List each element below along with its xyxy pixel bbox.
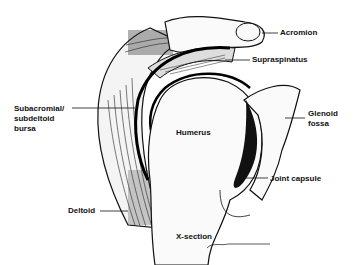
label-joint-capsule: Joint capsule <box>270 174 321 184</box>
label-deltoid: Deltoid <box>68 206 95 216</box>
shoulder-cross-section-diagram: Acromion Supraspinatus Subacromial/ subd… <box>0 0 354 265</box>
label-bursa-line1: Subacromial/ <box>14 104 64 114</box>
label-acromion: Acromion <box>280 28 317 38</box>
caption-x-section: X-section <box>176 232 212 242</box>
label-glenoid-line1: Glenoid <box>308 109 338 119</box>
label-bursa-line3: bursa <box>14 124 36 134</box>
signature-mark <box>207 244 270 248</box>
label-supraspinatus: Supraspinatus <box>252 55 308 65</box>
label-glenoid-line2: fossa <box>308 119 329 129</box>
label-bursa-line2: subdeltoid <box>14 114 54 124</box>
label-humerus: Humerus <box>176 128 211 138</box>
